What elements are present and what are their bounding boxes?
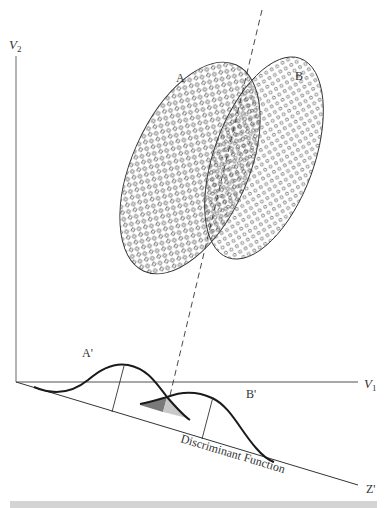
bottom-gray-bar (10, 501, 377, 508)
v1-label: V1 (364, 376, 376, 393)
v2-label: V2 (9, 37, 21, 54)
group-a-label: A (176, 71, 185, 85)
z-prime-label: Z' (366, 482, 376, 496)
group-b-label: B (295, 69, 303, 83)
b-prime-mean-line (202, 397, 213, 439)
discriminant-function-label: Discriminant Function (179, 431, 287, 476)
discriminant-diagram: V2 V1 Z' A B A' B' Discriminant Function (0, 0, 391, 508)
group-a-prime-label: A' (82, 346, 93, 360)
a-prime-mean-line (112, 366, 124, 412)
group-b-prime-label: B' (246, 387, 256, 401)
